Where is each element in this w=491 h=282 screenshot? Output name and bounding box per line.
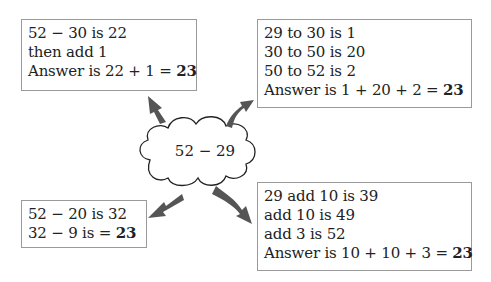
box-line: then add 1 [28, 43, 190, 62]
strategy-box-bottom-left: 52 − 20 is 32 32 − 9 is = 23 [21, 200, 147, 248]
answer-value: 23 [443, 81, 463, 99]
arrow-icon-bottom-right [212, 186, 252, 224]
center-problem-label: 52 − 29 [160, 142, 250, 161]
answer-prefix: Answer is 10 + 10 + 3 = [264, 244, 452, 262]
strategy-box-top-right: 29 to 30 is 1 30 to 50 is 20 50 to 52 is… [257, 19, 472, 108]
strategy-box-top-left: 52 − 30 is 22 then add 1 Answer is 22 + … [21, 19, 197, 91]
box-line: 50 to 52 is 2 [264, 62, 465, 81]
box-answer-line: 32 − 9 is = 23 [28, 224, 140, 243]
box-answer-line: Answer is 22 + 1 = 23 [28, 62, 190, 81]
box-line: 52 − 20 is 32 [28, 205, 140, 224]
box-answer-line: Answer is 10 + 10 + 3 = 23 [264, 244, 465, 263]
answer-value: 23 [452, 244, 472, 262]
answer-value: 23 [176, 62, 196, 80]
answer-prefix: Answer is 22 + 1 = [28, 62, 176, 80]
box-line: 30 to 50 is 20 [264, 43, 465, 62]
box-line: 52 − 30 is 22 [28, 24, 190, 43]
answer-prefix: Answer is 1 + 20 + 2 = [264, 81, 443, 99]
answer-value: 23 [116, 224, 136, 242]
box-line: add 3 is 52 [264, 225, 465, 244]
box-line: 29 to 30 is 1 [264, 24, 465, 43]
box-line: add 10 is 49 [264, 206, 465, 225]
strategy-box-bottom-right: 29 add 10 is 39 add 10 is 49 add 3 is 52… [257, 182, 472, 271]
box-answer-line: Answer is 1 + 20 + 2 = 23 [264, 81, 465, 100]
arrow-icon-bottom-left [148, 194, 184, 218]
answer-prefix: 32 − 9 is = [28, 224, 116, 242]
arrow-icon-top-right [226, 100, 254, 128]
arrow-icon-top-left [148, 96, 166, 124]
box-line: 29 add 10 is 39 [264, 187, 465, 206]
